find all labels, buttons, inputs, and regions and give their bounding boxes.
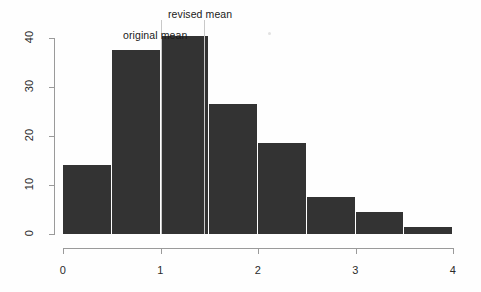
x-axis-tick bbox=[356, 248, 357, 254]
y-axis-tick-label: 30 bbox=[23, 75, 35, 97]
histogram-bar bbox=[161, 36, 210, 234]
y-axis-tick-label: 10 bbox=[23, 173, 35, 195]
histogram-bar bbox=[404, 227, 453, 234]
x-axis-tick-label: 2 bbox=[246, 264, 270, 276]
x-axis-tick-label: 1 bbox=[149, 264, 173, 276]
x-axis-left-cap bbox=[63, 248, 64, 254]
histogram-bar bbox=[307, 197, 356, 234]
y-axis-tick bbox=[49, 38, 54, 39]
annotation-line-revised-mean bbox=[204, 20, 205, 234]
annotation-label-original-mean: original mean bbox=[123, 29, 187, 41]
x-axis-right-cap bbox=[453, 248, 454, 254]
y-axis-tick-label: 20 bbox=[23, 124, 35, 146]
annotation-line-original-mean bbox=[161, 20, 162, 234]
y-axis-tick bbox=[49, 185, 54, 186]
annotation-label-revised-mean: revised mean bbox=[168, 8, 232, 20]
x-axis-tick bbox=[258, 248, 259, 254]
histogram-bar bbox=[258, 143, 307, 234]
x-axis-tick-label: 4 bbox=[441, 264, 465, 276]
plot-area: 010203040 01234 revised mean original me… bbox=[0, 0, 481, 292]
scan-speck bbox=[268, 32, 271, 35]
x-axis-tick-label: 0 bbox=[51, 264, 75, 276]
y-axis-tick bbox=[49, 136, 54, 137]
x-axis-tick-label: 3 bbox=[344, 264, 368, 276]
y-axis-tick bbox=[49, 87, 54, 88]
y-axis-tick-label: 40 bbox=[23, 26, 35, 48]
histogram-bar bbox=[209, 104, 258, 234]
y-axis-line bbox=[54, 38, 55, 235]
y-axis-tick bbox=[49, 234, 54, 235]
histogram-bar bbox=[63, 165, 112, 234]
x-axis-tick bbox=[161, 248, 162, 254]
histogram-bar bbox=[112, 50, 161, 234]
histogram-chart: 010203040 01234 revised mean original me… bbox=[0, 0, 481, 292]
histogram-bar bbox=[356, 212, 405, 234]
y-axis-tick-label: 0 bbox=[23, 222, 35, 244]
